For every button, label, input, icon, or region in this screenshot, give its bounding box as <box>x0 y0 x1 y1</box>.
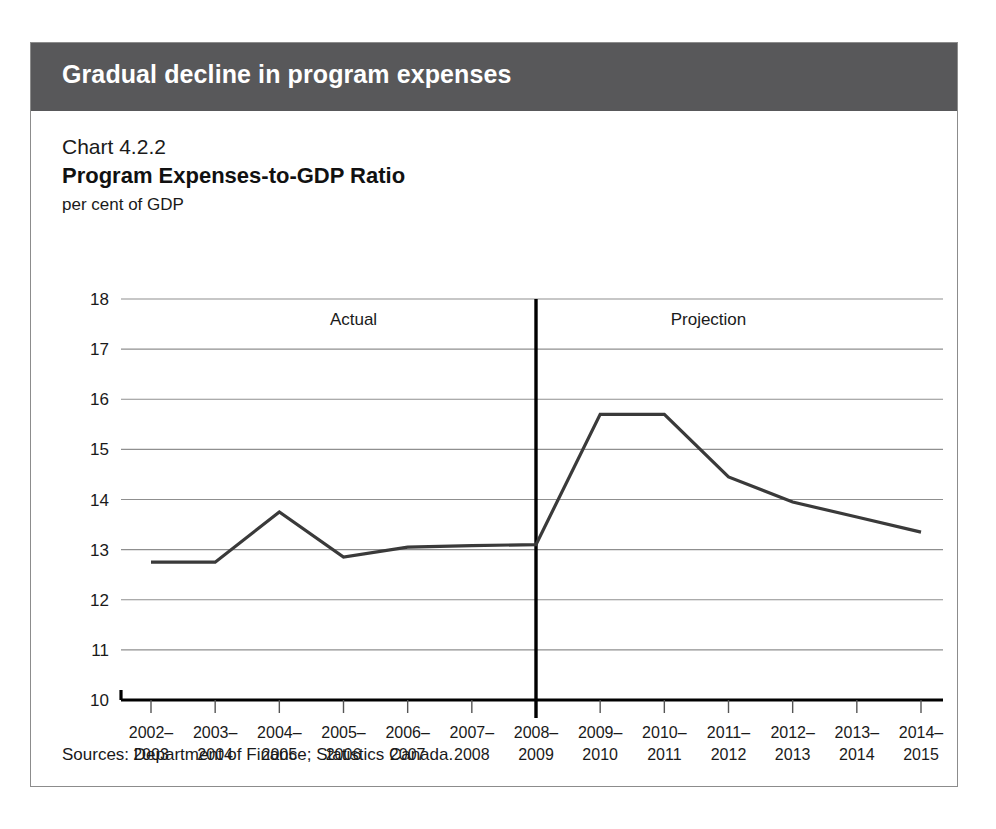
x-tick-label-10-line2: 2013 <box>775 746 811 763</box>
x-tick-label-10-line1: 2012– <box>770 724 815 741</box>
x-tick-label-3-line1: 2005– <box>321 724 366 741</box>
screenshot-root: Gradual decline in program expenses Char… <box>0 0 996 829</box>
y-tick-label-14: 14 <box>90 491 109 510</box>
region-labels-group: ActualProjection <box>330 310 746 329</box>
x-tick-label-2-line1: 2004– <box>257 724 302 741</box>
x-tick-label-5-line1: 2007– <box>450 724 495 741</box>
chart-body: Chart 4.2.2 Program Expenses-to-GDP Rati… <box>31 111 957 786</box>
gridlines-group <box>121 299 943 700</box>
x-tick-label-12-line1: 2014– <box>899 724 944 741</box>
y-tick-label-10: 10 <box>90 691 109 710</box>
x-tick-label-9-line1: 2011– <box>707 724 750 741</box>
region-label-projection: Projection <box>671 310 747 329</box>
banner-title: Gradual decline in program expenses <box>62 60 511 89</box>
chart-card: Gradual decline in program expenses Char… <box>30 42 958 787</box>
x-tick-label-1-line1: 2003– <box>193 724 238 741</box>
x-tick-label-4-line1: 2006– <box>385 724 430 741</box>
x-tick-label-8-line2: 2011 <box>647 746 682 763</box>
x-tick-label-11-line2: 2014 <box>839 746 875 763</box>
y-tick-label-13: 13 <box>90 541 109 560</box>
x-tick-label-7-line2: 2010 <box>582 746 618 763</box>
x-tick-label-12-line2: 2015 <box>903 746 939 763</box>
y-tick-label-12: 12 <box>90 591 109 610</box>
x-tick-label-5-line2: 2008 <box>454 746 490 763</box>
sources-note: Sources: Department of Finance; Statisti… <box>62 745 453 765</box>
x-tick-label-0-line1: 2002– <box>129 724 174 741</box>
y-tick-labels-group: 101112131415161718 <box>90 290 109 710</box>
x-tick-label-6-line1: 2008– <box>514 724 559 741</box>
x-tick-label-8-line1: 2010– <box>642 724 687 741</box>
region-label-actual: Actual <box>330 310 377 329</box>
line-chart-svg: 101112131415161718 2002–20032003–2004200… <box>31 111 957 787</box>
y-tick-label-16: 16 <box>90 390 109 409</box>
x-tick-label-11-line1: 2013– <box>835 724 880 741</box>
x-tick-label-7-line1: 2009– <box>578 724 623 741</box>
y-tick-label-17: 17 <box>90 340 109 359</box>
y-tick-label-11: 11 <box>91 641 109 660</box>
x-tick-label-9-line2: 2012 <box>711 746 747 763</box>
y-tick-label-18: 18 <box>90 290 109 309</box>
plot-area: 101112131415161718 2002–20032003–2004200… <box>31 111 957 787</box>
card-banner: Gradual decline in program expenses <box>31 43 957 111</box>
x-tick-label-6-line2: 2009 <box>518 746 554 763</box>
y-tick-label-15: 15 <box>90 440 109 459</box>
